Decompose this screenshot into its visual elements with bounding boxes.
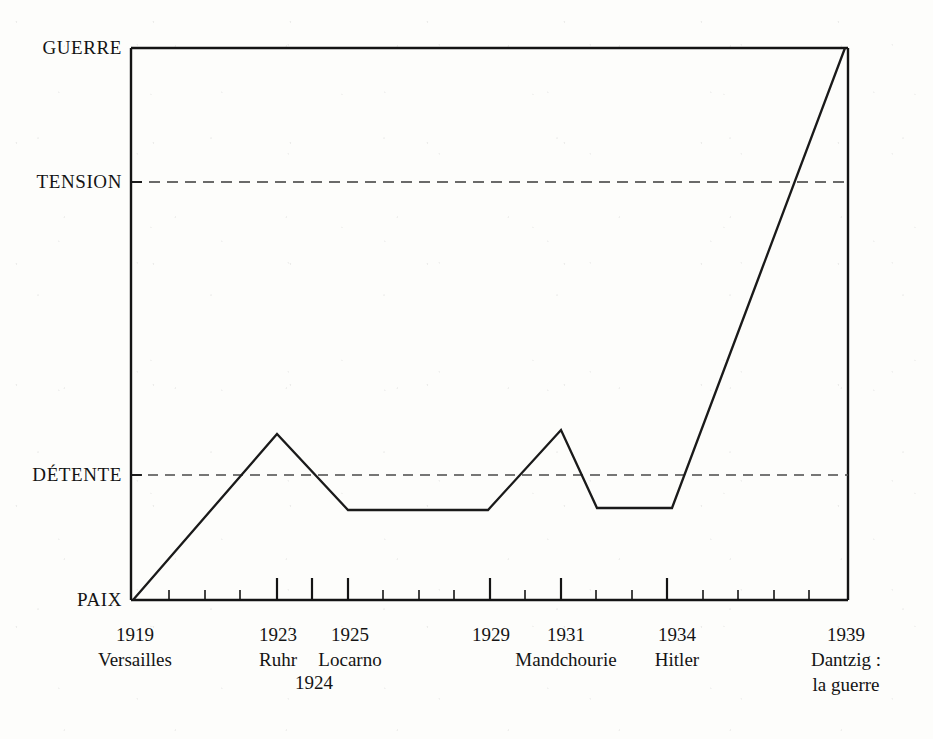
- x-axis-event-ruhr: Ruhr: [259, 647, 297, 672]
- y-axis-label-detente: DÉTENTE: [0, 464, 122, 486]
- x-axis-year-1925: 1925: [318, 622, 381, 647]
- x-axis-year-1919: 1919: [98, 622, 172, 647]
- x-axis-label-1939: 1939 Dantzig : la guerre: [811, 622, 881, 697]
- x-axis-event-mandchourie: Mandchourie: [515, 647, 616, 672]
- x-axis-event-hitler: Hitler: [655, 647, 699, 672]
- x-axis-event-locarno: Locarno: [318, 647, 381, 672]
- y-axis-label-guerre: GUERRE: [0, 37, 122, 59]
- x-axis-year-1939: 1939: [811, 622, 881, 647]
- y-axis-ticks: [131, 182, 142, 475]
- y-axis-label-paix: PAIX: [0, 589, 122, 611]
- x-axis-ticks: [169, 578, 809, 600]
- x-axis-event-versailles: Versailles: [98, 647, 172, 672]
- x-axis-label-1925: 1925 Locarno: [318, 622, 381, 672]
- x-axis-year-1923: 1923: [259, 622, 297, 647]
- x-axis-year-1931: 1931: [515, 622, 616, 647]
- x-axis-label-1931: 1931 Mandchourie: [515, 622, 616, 672]
- x-axis-label-1929: 1929: [472, 622, 510, 647]
- x-axis-label-1919: 1919 Versailles: [98, 622, 172, 672]
- x-axis-label-1923: 1923 Ruhr: [259, 622, 297, 672]
- x-axis-event-la-guerre: la guerre: [811, 672, 881, 697]
- tension-data-line: [133, 48, 845, 600]
- x-axis-year-1934: 1934: [655, 622, 699, 647]
- x-axis-year-1929: 1929: [472, 622, 510, 647]
- x-axis-label-1934: 1934 Hitler: [655, 622, 699, 672]
- x-axis-secondary-year-1924: 1924: [295, 672, 333, 694]
- y-axis-label-tension: TENSION: [0, 171, 122, 193]
- chart-page: GUERRE TENSION DÉTENTE PAIX 1919 Versail…: [0, 0, 933, 739]
- x-axis-event-dantzig: Dantzig :: [811, 647, 881, 672]
